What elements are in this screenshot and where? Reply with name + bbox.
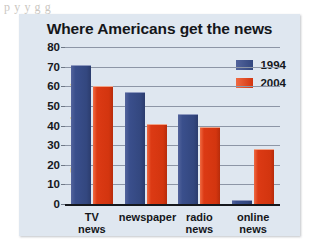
y-tick-label-80: 80 bbox=[47, 41, 60, 53]
y-tick-label-40: 40 bbox=[47, 120, 60, 132]
bar-group: online news bbox=[226, 47, 280, 204]
bar-1994 bbox=[125, 92, 145, 204]
bar-group: newspaper bbox=[119, 47, 173, 204]
bar-1994 bbox=[232, 200, 252, 204]
y-tickmark-0 bbox=[61, 204, 65, 205]
chart-figure: Where Americans get the news Percent of … bbox=[19, 14, 300, 236]
scanned-page-text: p y y g g bbox=[0, 0, 315, 14]
y-tick-label-50: 50 bbox=[47, 100, 60, 112]
axis-baseline bbox=[65, 204, 280, 206]
bar-2004 bbox=[93, 86, 113, 204]
x-category-label: newspaper bbox=[119, 211, 173, 223]
bar-2004 bbox=[254, 149, 274, 204]
chart-title: Where Americans get the news bbox=[19, 20, 300, 38]
x-category-label: radio news bbox=[173, 211, 227, 235]
bar-group: radio news bbox=[173, 47, 227, 204]
y-tick-label-60: 60 bbox=[47, 80, 60, 92]
bar-1994 bbox=[71, 65, 91, 204]
y-tick-label-20: 20 bbox=[47, 159, 60, 171]
y-tick-label-30: 30 bbox=[47, 139, 60, 151]
x-category-label: TV news bbox=[65, 211, 119, 235]
y-tick-label-10: 10 bbox=[47, 178, 60, 190]
plot-area: 80706050403020100TV newsnewspaperradio n… bbox=[65, 47, 280, 204]
y-tick-label-0: 0 bbox=[54, 198, 60, 210]
x-category-label: online news bbox=[226, 211, 280, 235]
bar-1994 bbox=[178, 114, 198, 204]
bar-2004 bbox=[200, 127, 220, 204]
y-tick-label-70: 70 bbox=[47, 61, 60, 73]
bar-group: TV news bbox=[65, 47, 119, 204]
bar-2004 bbox=[147, 124, 167, 204]
